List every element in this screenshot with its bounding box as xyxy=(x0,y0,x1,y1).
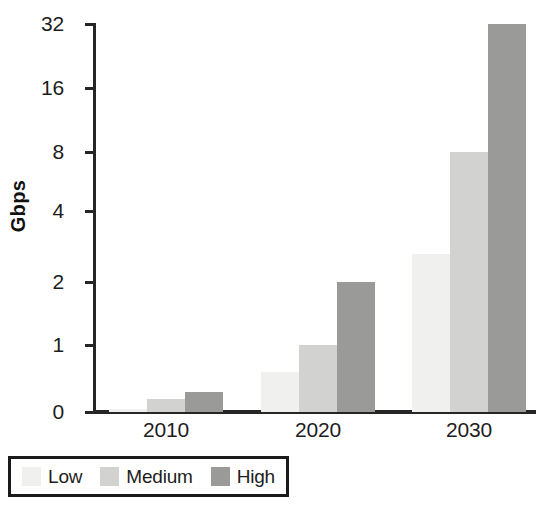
x-tick-label: 2030 xyxy=(424,418,514,442)
bar-medium-2010 xyxy=(147,399,185,412)
bar-medium-2030 xyxy=(450,152,488,412)
bar-low-2030 xyxy=(412,254,450,412)
bar-high-2020 xyxy=(337,282,375,412)
y-tick-mark xyxy=(85,151,96,154)
y-tick-label: 32 xyxy=(22,13,64,34)
legend-item: High xyxy=(202,467,284,486)
legend-swatch-medium xyxy=(100,467,119,486)
bar-low-2010 xyxy=(109,409,147,412)
bar-medium-2020 xyxy=(299,345,337,412)
legend-swatch-low xyxy=(22,467,41,486)
bar-chart: Gbps 012481632 201020202030 Low Medium H… xyxy=(0,0,539,506)
legend-label-medium: Medium xyxy=(126,467,192,486)
y-tick-mark xyxy=(85,344,96,347)
bar-low-2020 xyxy=(261,372,299,412)
y-tick-label: 4 xyxy=(22,200,64,221)
y-tick-label: 2 xyxy=(22,271,64,292)
x-tick-label: 2020 xyxy=(273,418,363,442)
y-tick-label: 1 xyxy=(22,334,64,355)
y-tick-mark xyxy=(85,210,96,213)
y-tick-mark xyxy=(85,87,96,90)
legend-swatch-high xyxy=(211,467,230,486)
y-tick-mark xyxy=(85,23,96,26)
bar-high-2030 xyxy=(488,24,526,412)
legend-item: Low xyxy=(13,467,91,486)
x-tick-label: 2010 xyxy=(121,418,211,442)
plot-area xyxy=(96,20,536,412)
y-tick-label: 0 xyxy=(22,401,64,422)
bar-high-2010 xyxy=(185,392,223,412)
legend: Low Medium High xyxy=(8,456,289,497)
y-tick-label: 16 xyxy=(22,77,64,98)
legend-label-low: Low xyxy=(48,467,82,486)
legend-item: Medium xyxy=(91,467,201,486)
y-tick-label: 8 xyxy=(22,141,64,162)
legend-label-high: High xyxy=(237,467,275,486)
y-tick-mark xyxy=(85,281,96,284)
